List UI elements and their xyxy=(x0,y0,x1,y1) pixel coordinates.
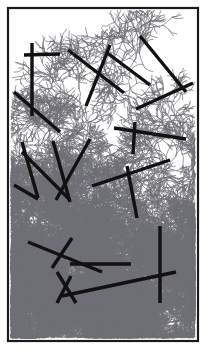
fractal-figure xyxy=(0,0,206,349)
fiber-segment-f10 xyxy=(133,122,135,154)
figure-root xyxy=(0,0,206,349)
fiber-segment-f01 xyxy=(24,54,60,55)
